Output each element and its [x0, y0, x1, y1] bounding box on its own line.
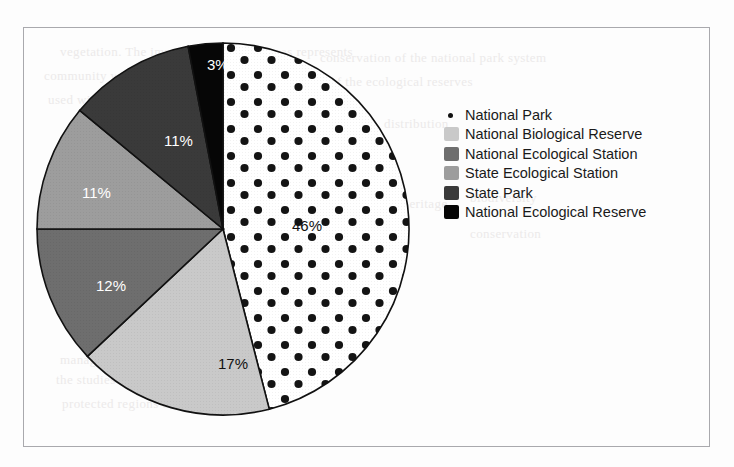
pie-graphic: 46%17%12%11%11%3% [35, 41, 411, 417]
legend-item-label: National Biological Reserve [465, 127, 642, 142]
black-swatch-icon [444, 205, 459, 219]
legend-item-label: National Ecological Station [465, 147, 638, 162]
scanned-page: vegetation. The importance of these area… [0, 0, 734, 467]
legend-item-label: National Park [465, 108, 552, 123]
legend-item-label: State Park [465, 186, 533, 201]
dot-pattern-swatch-icon [444, 108, 459, 122]
legend-item[interactable]: National Ecological Station [444, 144, 694, 164]
light-gray-swatch-icon [444, 127, 459, 141]
legend: National ParkNational Biological Reserve… [444, 105, 694, 222]
legend-item-label: State Ecological Station [465, 166, 618, 181]
legend-item[interactable]: National Park [444, 105, 694, 125]
pie-chart: 46%17%12%11%11%3% National ParkNational … [0, 0, 734, 467]
legend-item[interactable]: State Ecological Station [444, 164, 694, 184]
pie-svg [35, 41, 411, 417]
medium-gray-swatch-icon [444, 166, 459, 180]
medium-dark-gray-swatch-icon [444, 147, 459, 161]
legend-item-label: National Ecological Reserve [465, 205, 646, 220]
dark-gray-swatch-icon [444, 186, 459, 200]
legend-item[interactable]: National Biological Reserve [444, 125, 694, 145]
legend-item[interactable]: State Park [444, 183, 694, 203]
legend-item[interactable]: National Ecological Reserve [444, 203, 694, 223]
pie-slices [37, 43, 409, 415]
